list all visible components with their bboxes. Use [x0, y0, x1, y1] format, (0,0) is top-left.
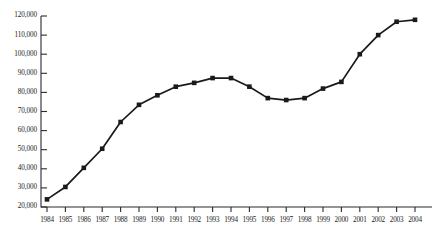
y-axis-tick-label: 70,000	[0, 107, 37, 115]
x-axis-tick-label: 2004	[400, 216, 430, 224]
data-point-marker	[247, 84, 252, 89]
data-point-markers	[45, 18, 418, 202]
y-axis-tick-label: 20,000	[0, 202, 37, 210]
data-point-marker	[63, 185, 68, 190]
data-point-marker	[118, 120, 123, 125]
y-axis-tick-label: 30,000	[0, 183, 37, 191]
y-axis-ticks	[41, 16, 47, 207]
y-axis-tick-label: 40,000	[0, 164, 37, 172]
data-point-marker	[266, 96, 271, 101]
data-point-marker	[284, 98, 289, 103]
data-point-marker	[302, 96, 307, 101]
data-point-marker	[376, 33, 381, 38]
y-axis-tick-label: 120,000	[0, 11, 37, 19]
y-axis-tick-label: 60,000	[0, 126, 37, 134]
y-axis-tick-label: 50,000	[0, 145, 37, 153]
y-axis-tick-label: 110,000	[0, 31, 37, 39]
x-axis-ticks	[47, 207, 415, 212]
data-point-marker	[210, 76, 215, 81]
data-point-marker	[339, 80, 344, 85]
data-point-marker	[100, 146, 105, 151]
data-point-marker	[358, 52, 363, 57]
data-point-marker	[82, 166, 87, 171]
data-point-marker	[174, 84, 179, 89]
y-axis-tick-label: 80,000	[0, 88, 37, 96]
data-point-marker	[137, 103, 142, 108]
data-point-marker	[321, 86, 326, 91]
data-point-marker	[192, 81, 197, 86]
data-point-marker	[229, 76, 234, 81]
line-chart: 20,00030,00040,00050,00060,00070,00080,0…	[0, 0, 435, 239]
data-series-line	[47, 20, 415, 200]
chart-axes	[41, 16, 432, 207]
chart-plot-area	[0, 0, 435, 239]
data-point-marker	[413, 18, 418, 23]
data-point-marker	[155, 93, 160, 98]
data-point-marker	[394, 19, 399, 24]
data-point-marker	[45, 197, 50, 202]
y-axis-tick-label: 90,000	[0, 69, 37, 77]
y-axis-tick-label: 100,000	[0, 50, 37, 58]
